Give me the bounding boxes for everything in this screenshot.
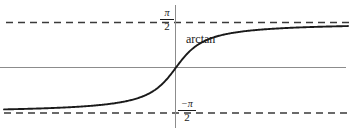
asymptote-lower-denominator: 2 <box>178 111 196 123</box>
asymptote-lower-label: −π 2 <box>178 99 196 123</box>
asymptote-upper-numerator: π <box>160 8 174 19</box>
curve-name-label: arctan <box>186 33 215 45</box>
arctan-plot-figure: π 2 −π 2 arctan <box>0 0 354 137</box>
asymptote-upper-label: π 2 <box>160 8 174 32</box>
asymptote-upper-denominator: 2 <box>160 20 174 32</box>
plot-canvas <box>0 0 354 137</box>
asymptote-lower-numerator: −π <box>178 99 196 110</box>
